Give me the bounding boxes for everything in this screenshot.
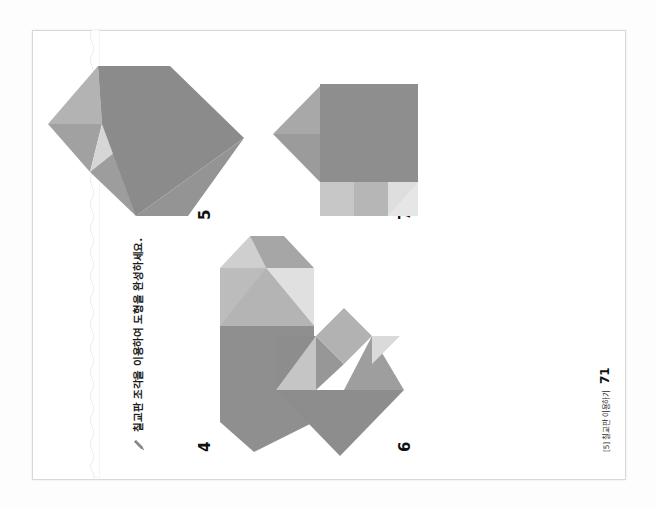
tangram-shape-6 [274,291,409,456]
tangram-shape-7 [268,63,428,228]
piece-arrow-head [276,390,404,456]
piece-left-lower-sq [354,182,388,216]
piece-body-square [320,84,418,182]
pencil-icon [131,439,144,452]
problem-number-4: 4 [196,442,214,452]
instruction-text: 칠교판 조각을 이용하여 도형을 완성하세요. [130,238,145,432]
footer-page-number: 71 [598,367,612,384]
piece-top-right-triangle [48,66,102,124]
page-content-rotated: 칠교판 조각을 이용하여 도형을 완성하세요. 4 5 [100,30,624,478]
footer-section-tag: [5] 칠교판 이용하기 [600,390,612,452]
piece-roof-right [273,84,322,134]
page-footer: [5] 칠교판 이용하기 71 [598,56,612,452]
instruction-row: 칠교판 조각을 이용하여 도형을 완성하세요. [130,238,145,452]
scan-surface: 칠교판 조각을 이용하여 도형을 완성하세요. 4 5 [0,0,656,508]
piece-roof-left [273,134,320,182]
piece-left-upper-sq [320,182,354,216]
tangram-shape-5 [46,42,256,232]
